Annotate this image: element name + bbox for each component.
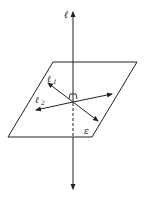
label-line-l2: ℓ [35,95,39,105]
label-line-l2-sub: 2 [40,99,45,106]
label-line-l: ℓ [64,9,68,20]
line-l1-b [73,102,98,121]
label-line-l1-sub: 1 [53,78,57,85]
diagram-canvas: ℓ ℓ 1 ℓ 2 ε [0,0,145,197]
label-line-l1: ℓ [47,74,51,84]
line-l2-b [73,94,112,102]
label-plane-epsilon: ε [84,126,89,136]
line-l1 [48,83,73,102]
